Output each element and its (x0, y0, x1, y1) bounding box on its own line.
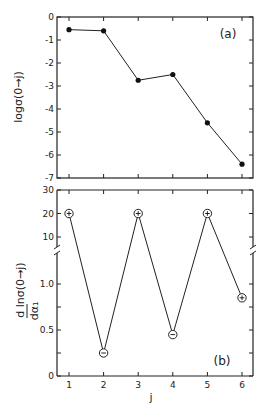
y-tick-label: -3 (45, 81, 54, 91)
y-axis-label-b: d lnσ(0→j)dα₁ (14, 262, 41, 320)
x-tick-label: 6 (239, 380, 245, 390)
data-point (65, 209, 73, 217)
x-tick-label: 4 (170, 380, 176, 390)
y-tick-label: 30 (43, 185, 55, 195)
data-point (101, 28, 106, 33)
y-tick-label: 20 (43, 209, 55, 219)
data-point (203, 209, 211, 217)
x-tick-label: 2 (101, 380, 107, 390)
y-axis-label-a: logσ(0→j) (12, 71, 25, 123)
panel-label-b: (b) (214, 354, 231, 368)
y-tick-label: 0.5 (40, 325, 54, 335)
y-tick-label: 0 (48, 12, 54, 22)
panel-a (57, 17, 253, 178)
series-line-b (139, 218, 171, 331)
y-tick-label: -7 (45, 173, 54, 183)
series-line-a (69, 30, 242, 165)
y-tick-label: 1.0 (40, 279, 55, 289)
data-point (99, 349, 107, 357)
data-point (239, 162, 244, 167)
panel-a-frame (57, 17, 253, 178)
x-axis-label: j (148, 391, 152, 404)
y-tick-label: 0 (48, 371, 54, 381)
data-point (134, 209, 142, 217)
series-line-b (174, 218, 206, 331)
y-tick-label: -1 (45, 35, 54, 45)
data-point (169, 330, 177, 338)
chart-svg: 0-1-2-3-4-5-6-7(a)logσ(0→j)d lnσ(0→j)dα₁… (0, 0, 266, 408)
data-point (238, 294, 246, 302)
series-line-b (70, 218, 103, 349)
x-tick-label: 5 (205, 380, 211, 390)
x-tick-label: 1 (66, 380, 72, 390)
y-tick-label: 10 (43, 232, 55, 242)
data-point (66, 27, 71, 32)
y-tick-label: -6 (45, 150, 54, 160)
x-tick-label: 3 (135, 380, 141, 390)
svg-text:d lnσ(0→j): d lnσ(0→j) (14, 262, 27, 317)
series-line-b (209, 217, 240, 294)
data-point (205, 120, 210, 125)
panel-label-a: (a) (220, 27, 237, 41)
y-tick-label: -5 (45, 127, 54, 137)
y-tick-label: -2 (45, 58, 54, 68)
data-point (170, 72, 175, 77)
svg-text:dα₁: dα₁ (28, 302, 41, 321)
series-line-b (105, 218, 138, 349)
y-tick-label: -4 (45, 104, 54, 114)
data-point (136, 78, 141, 83)
